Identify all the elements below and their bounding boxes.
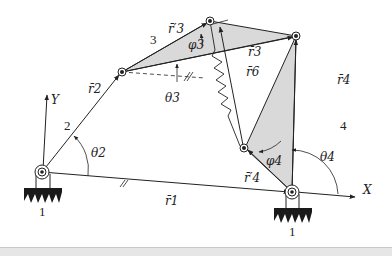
pin-joint-D: [240, 144, 248, 152]
crank-link-2: [42, 75, 119, 172]
label-x-axis: X: [362, 183, 372, 197]
ground-pivot-right-icon: [274, 185, 312, 223]
label-link-3: 3: [150, 32, 157, 47]
label-phi3: φ3: [188, 38, 204, 52]
label-ground-left: 1: [39, 204, 46, 219]
label-link-2: 2: [64, 118, 71, 133]
x-axis: [296, 192, 355, 197]
pin-joint-A: [118, 68, 126, 76]
pin-joint-B: [292, 32, 300, 40]
bottom-border: [0, 247, 392, 256]
label-phi4: φ4: [266, 154, 282, 168]
label-theta3: θ3: [165, 91, 180, 105]
label-r4: r̄4: [337, 73, 350, 87]
label-r1: r̄1: [165, 194, 178, 208]
label-r3: r̄3: [248, 45, 262, 59]
label-y-axis: Y: [51, 93, 60, 107]
pin-joint-C: [206, 17, 214, 25]
label-theta4: θ4: [320, 150, 335, 164]
label-r3-prime: r̄′3: [168, 22, 184, 36]
y-axis: [43, 95, 47, 170]
label-r4-prime: r̄′4: [244, 171, 260, 185]
theta2-arc: [74, 136, 88, 176]
label-r6: r̄6: [246, 65, 260, 79]
label-r2: r̄2: [88, 82, 101, 96]
coupler-link-3: [122, 21, 296, 72]
parallel-mark-icon: [120, 72, 193, 187]
rocker-link-4: [245, 36, 296, 192]
ground-pivot-left-icon: [24, 165, 62, 203]
label-link-4: 4: [340, 118, 347, 133]
label-theta2: θ2: [91, 146, 106, 160]
label-ground-right: 1: [289, 224, 296, 239]
